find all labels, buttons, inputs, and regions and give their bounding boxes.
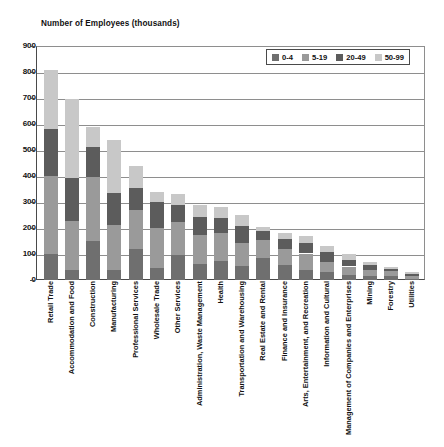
- bar-segment[interactable]: [384, 267, 398, 269]
- bar-segment[interactable]: [214, 261, 228, 280]
- chart-title: Number of Employees (thousands): [41, 19, 180, 28]
- bar-segment[interactable]: [107, 140, 121, 193]
- bar-segment[interactable]: [235, 215, 249, 226]
- bar-segment[interactable]: [320, 272, 334, 280]
- bar-segment[interactable]: [256, 258, 270, 280]
- bar-segment[interactable]: [342, 254, 356, 260]
- bar-segment[interactable]: [65, 178, 79, 221]
- legend-item[interactable]: 20-49: [336, 53, 365, 62]
- bar-segment[interactable]: [129, 249, 143, 280]
- bar-segment[interactable]: [193, 264, 207, 280]
- bar-segment[interactable]: [86, 127, 100, 148]
- bar-segment[interactable]: [278, 233, 292, 239]
- bar-stack[interactable]: [65, 99, 79, 280]
- bar-segment[interactable]: [65, 221, 79, 270]
- bar-segment[interactable]: [150, 192, 164, 202]
- bar-segment[interactable]: [363, 276, 377, 280]
- bar-segment[interactable]: [405, 272, 419, 274]
- bar-stack[interactable]: [384, 267, 398, 280]
- bar-segment[interactable]: [193, 217, 207, 236]
- bar-segment[interactable]: [65, 99, 79, 178]
- bar-segment[interactable]: [299, 254, 313, 270]
- bar-segment[interactable]: [150, 202, 164, 228]
- y-tick-mark: [30, 176, 35, 177]
- bar-segment[interactable]: [299, 236, 313, 243]
- bar-segment[interactable]: [384, 276, 398, 280]
- bar-segment[interactable]: [278, 265, 292, 280]
- bar-stack[interactable]: [193, 205, 207, 280]
- bar-stack[interactable]: [342, 254, 356, 280]
- x-tick-label: Wholesale Trade: [153, 281, 162, 339]
- bar-segment[interactable]: [278, 239, 292, 248]
- bar-stack[interactable]: [171, 194, 185, 280]
- bar-segment[interactable]: [107, 225, 121, 269]
- bar-segment[interactable]: [44, 254, 58, 280]
- bar-segment[interactable]: [363, 262, 377, 265]
- bar-segment[interactable]: [405, 276, 419, 279]
- bar-segment[interactable]: [171, 255, 185, 280]
- bar-segment[interactable]: [320, 246, 334, 252]
- bar-segment[interactable]: [256, 240, 270, 258]
- bar-segment[interactable]: [405, 279, 419, 280]
- bar-stack[interactable]: [129, 166, 143, 280]
- bar-segment[interactable]: [299, 243, 313, 253]
- bar-segment[interactable]: [384, 271, 398, 276]
- bar-segment[interactable]: [44, 129, 58, 176]
- bar-segment[interactable]: [107, 270, 121, 280]
- bar-stack[interactable]: [405, 272, 419, 280]
- bar-segment[interactable]: [150, 268, 164, 280]
- bar-segment[interactable]: [342, 260, 356, 267]
- bar-segment[interactable]: [86, 241, 100, 280]
- bar-stack[interactable]: [278, 233, 292, 280]
- legend-item[interactable]: 5-19: [302, 53, 327, 62]
- bar-segment[interactable]: [107, 193, 121, 226]
- bar-segment[interactable]: [129, 188, 143, 210]
- bar-segment[interactable]: [214, 233, 228, 261]
- bar-segment[interactable]: [214, 207, 228, 218]
- bar-stack[interactable]: [86, 127, 100, 280]
- bar-segment[interactable]: [171, 205, 185, 221]
- bar-stack[interactable]: [320, 246, 334, 280]
- bar-segment[interactable]: [150, 228, 164, 268]
- bar-segment[interactable]: [278, 249, 292, 265]
- bar-segment[interactable]: [235, 226, 249, 242]
- bar-segment[interactable]: [320, 252, 334, 261]
- bar-segment[interactable]: [235, 266, 249, 280]
- bar-segment[interactable]: [363, 265, 377, 270]
- legend-item[interactable]: 50-99: [375, 53, 404, 62]
- bar-segment[interactable]: [214, 218, 228, 233]
- bar-segment[interactable]: [256, 231, 270, 240]
- bar-segment[interactable]: [44, 176, 58, 254]
- bar-segment[interactable]: [193, 205, 207, 217]
- bar-segment[interactable]: [44, 70, 58, 129]
- bar-segment[interactable]: [86, 147, 100, 177]
- legend-item[interactable]: 0-4: [272, 53, 293, 62]
- bar-segment[interactable]: [171, 194, 185, 205]
- bar-segment[interactable]: [363, 270, 377, 276]
- bar-stack[interactable]: [44, 70, 58, 280]
- bar-segment[interactable]: [299, 270, 313, 280]
- bar-segment[interactable]: [235, 243, 249, 267]
- bar-stack[interactable]: [256, 227, 270, 280]
- bar-segment[interactable]: [342, 267, 356, 275]
- bar-stack[interactable]: [107, 140, 121, 280]
- bar-segment[interactable]: [129, 166, 143, 188]
- bar-segment[interactable]: [129, 210, 143, 249]
- y-tick-mark: [30, 46, 35, 47]
- bar-stack[interactable]: [299, 236, 313, 280]
- bar-segment[interactable]: [86, 177, 100, 241]
- bar-segment[interactable]: [171, 222, 185, 256]
- bar-segment[interactable]: [405, 274, 419, 277]
- legend-swatch-icon: [302, 54, 309, 61]
- bar-stack[interactable]: [150, 192, 164, 280]
- bar-segment[interactable]: [320, 262, 334, 272]
- bar-segment[interactable]: [256, 227, 270, 231]
- bar-stack[interactable]: [235, 215, 249, 280]
- bar-segment[interactable]: [193, 235, 207, 264]
- bar-stack[interactable]: [363, 262, 377, 280]
- y-axis: 0100200300400500600700800900: [0, 0, 36, 447]
- bar-segment[interactable]: [65, 270, 79, 280]
- bar-segment[interactable]: [342, 275, 356, 280]
- bar-stack[interactable]: [214, 207, 228, 280]
- bar-segment[interactable]: [384, 269, 398, 272]
